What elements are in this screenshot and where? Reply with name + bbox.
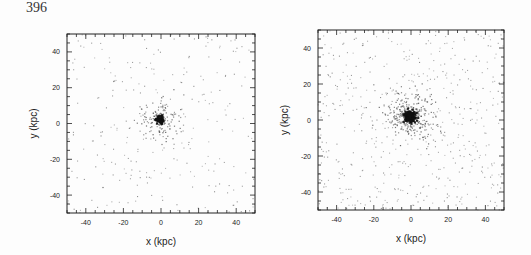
y-tick-label: 0 [307,117,311,124]
y-axis-label: y (kpc) [28,109,39,139]
x-tick-label: -40 [81,219,91,226]
y-tick-label: -40 [301,189,311,196]
x-tick-label: -20 [118,219,128,226]
y-tick-label: 40 [303,45,311,52]
y-tick-label: -20 [50,156,60,163]
y-tick-label: 40 [52,48,60,55]
x-tick-label: 0 [159,219,163,226]
y-tick-label: 20 [52,84,60,91]
x-tick-label: 20 [444,216,452,223]
plot-svg: -40-2002040-40-2002040x (kpc)y (kpc) [268,24,510,255]
x-tick-label: 0 [409,216,413,223]
scatter-plot-right: -40-2002040-40-2002040x (kpc)y (kpc) [268,24,510,255]
x-tick-label: -20 [369,216,379,223]
y-tick-label: 0 [56,120,60,127]
x-axis-label: x (kpc) [146,236,176,247]
page-number: 396 [26,0,47,16]
x-tick-label: -40 [332,216,342,223]
scatter-points [68,34,255,213]
y-tick-label: -40 [50,192,60,199]
y-axis-label: y (kpc) [279,105,290,135]
scatter-plot-left: -40-2002040-40-2002040x (kpc)y (kpc) [17,28,261,255]
plot-svg: -40-2002040-40-2002040x (kpc)y (kpc) [17,28,261,255]
scatter-points [318,30,505,211]
x-tick-label: 40 [482,216,490,223]
y-tick-label: 20 [303,81,311,88]
x-tick-label: 20 [195,219,203,226]
x-tick-label: 40 [232,219,240,226]
x-axis-label: x (kpc) [396,233,426,244]
y-tick-label: -20 [301,153,311,160]
